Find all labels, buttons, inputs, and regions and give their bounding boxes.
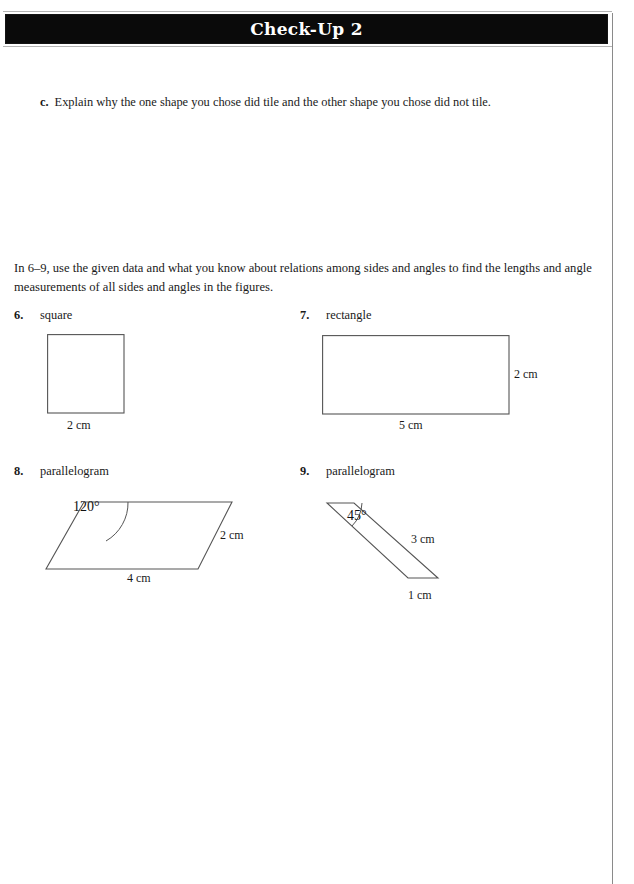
question-c-label: c. <box>40 95 49 109</box>
parallelogram-45-right-dimension-label: 3 cm <box>411 532 435 547</box>
parallelogram-45-angle-label: 45° <box>347 508 367 524</box>
problem-6-heading: 6.square <box>14 308 72 323</box>
figure-square <box>47 334 125 414</box>
page-title: Check-Up 2 <box>5 14 608 44</box>
problem-8-name: parallelogram <box>40 464 109 478</box>
problem-9-heading: 9.parallelogram <box>300 464 395 479</box>
parallelogram-120-right-dimension-label: 2 cm <box>220 528 244 543</box>
worksheet-page: Check-Up 2 c.Explain why the one shape y… <box>0 0 634 884</box>
instructions-paragraph: In 6–9, use the given data and what you … <box>14 259 599 296</box>
angle-arc-120-icon <box>106 502 128 541</box>
square-bottom-dimension-label: 2 cm <box>67 418 91 433</box>
problem-8-heading: 8.parallelogram <box>14 464 109 479</box>
figure-parallelogram-120 <box>40 494 245 578</box>
square-outline <box>48 335 124 413</box>
problem-9-name: parallelogram <box>326 464 395 478</box>
rectangle-right-dimension-label: 2 cm <box>514 367 538 382</box>
page-header-banner: Check-Up 2 <box>3 11 612 47</box>
problem-7-name: rectangle <box>326 308 371 322</box>
figure-rectangle <box>322 335 510 415</box>
parallelogram-120-angle-label: 120° <box>73 499 100 515</box>
question-c-text: Explain why the one shape you chose did … <box>55 95 491 109</box>
problem-7-number: 7. <box>300 308 326 323</box>
page-right-margin-rule <box>612 13 613 884</box>
problem-8-number: 8. <box>14 464 40 479</box>
rectangle-outline <box>323 336 509 414</box>
problem-6-name: square <box>40 308 72 322</box>
problem-6-number: 6. <box>14 308 40 323</box>
question-c: c.Explain why the one shape you chose di… <box>40 94 580 110</box>
header-banner-fill: Check-Up 2 <box>5 14 608 44</box>
problem-9-number: 9. <box>300 464 326 479</box>
parallelogram-45-bottom-dimension-label: 1 cm <box>408 588 432 603</box>
problem-7-heading: 7.rectangle <box>300 308 371 323</box>
rectangle-bottom-dimension-label: 5 cm <box>399 418 423 433</box>
parallelogram-120-bottom-dimension-label: 4 cm <box>127 571 151 586</box>
